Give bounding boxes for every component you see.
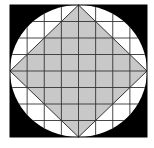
geometry-diagram xyxy=(0,0,154,148)
